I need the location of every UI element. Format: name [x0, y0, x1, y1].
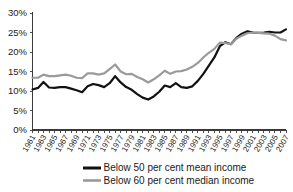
- y-tick-label: 30%: [8, 7, 28, 18]
- chart-canvas: 0%5%10%15%20%25%30% 19611963196519671969…: [0, 0, 293, 192]
- x-axis: 1961196319651967196919711973197519771979…: [21, 130, 291, 153]
- y-tick-label: 10%: [8, 85, 28, 96]
- y-tick-label: 5%: [13, 105, 27, 116]
- series-line-2: [33, 33, 287, 83]
- y-tick-label: 20%: [8, 46, 28, 57]
- legend-label-2: Below 60 per cent median income: [104, 175, 255, 186]
- chart-legend: Below 50 per cent mean incomeBelow 60 pe…: [83, 162, 255, 186]
- y-axis: 0%5%10%15%20%25%30%: [8, 7, 33, 135]
- series-line-1: [33, 29, 287, 99]
- x-tick-label: 2007: [274, 133, 291, 153]
- y-tick-label: 15%: [8, 66, 28, 77]
- legend-label-1: Below 50 per cent mean income: [104, 162, 247, 173]
- y-tick-label: 25%: [8, 27, 28, 38]
- series-layer: [33, 29, 287, 99]
- poverty-rate-line-chart: 0%5%10%15%20%25%30% 19611963196519671969…: [0, 0, 293, 192]
- y-tick-label: 0%: [13, 124, 27, 135]
